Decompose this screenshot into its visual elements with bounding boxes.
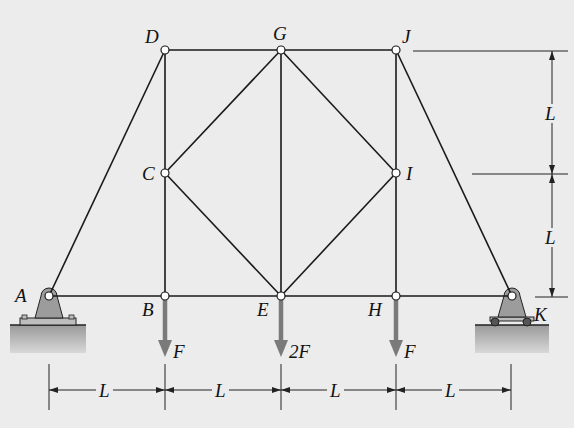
vertical-dimension bbox=[413, 51, 568, 297]
dim-label-eh: L bbox=[327, 381, 344, 400]
truss-drawing bbox=[0, 0, 574, 428]
joint-label-g: G bbox=[273, 24, 287, 43]
load-label-e: 2F bbox=[289, 342, 310, 361]
joint-label-h: H bbox=[368, 300, 382, 319]
dim-label-hk: L bbox=[442, 381, 459, 400]
load-label-h: F bbox=[404, 342, 416, 361]
load-arrows bbox=[158, 300, 403, 357]
joint-label-b: B bbox=[142, 300, 154, 319]
dim-label-lower: L bbox=[542, 228, 559, 247]
joint-label-j: J bbox=[402, 27, 410, 46]
dim-label-be: L bbox=[212, 381, 229, 400]
joint-label-k: K bbox=[534, 305, 547, 324]
dim-label-ab: L bbox=[96, 381, 113, 400]
truss-diagram: A B C D E G H I J K F 2F F L L L L L L bbox=[0, 0, 574, 428]
truss-members bbox=[49, 50, 512, 296]
joint-label-c: C bbox=[142, 164, 155, 183]
ground-left bbox=[10, 325, 86, 353]
dim-label-upper: L bbox=[542, 104, 559, 123]
joint-label-i: I bbox=[406, 164, 412, 183]
ground-right bbox=[475, 325, 549, 353]
joint-label-a: A bbox=[15, 286, 27, 305]
load-label-b: F bbox=[173, 342, 185, 361]
joint-label-d: D bbox=[145, 27, 159, 46]
joint-label-e: E bbox=[257, 300, 269, 319]
